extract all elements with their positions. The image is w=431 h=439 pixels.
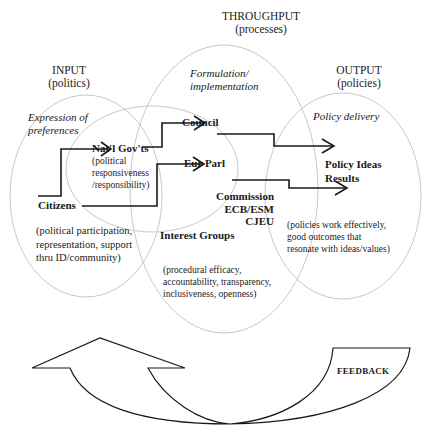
output-desc-line: resonate with ideas/values) — [287, 244, 390, 256]
citizens-desc-line: thru ID/community) — [36, 251, 132, 265]
citizens-desc-line: (political participation, — [36, 224, 132, 238]
feedback-arrow — [32, 338, 410, 424]
output-results-block: Policy Ideas Results — [325, 158, 382, 186]
eur-parl-label: Eur Parl — [184, 157, 225, 170]
results-label: Results — [325, 172, 382, 186]
policy-ideas-label: Policy Ideas — [325, 158, 382, 172]
input-phase-line: preferences — [28, 124, 88, 137]
throughput-phase-line: Formulation/ — [190, 67, 258, 80]
citizens-label: Citizens — [38, 199, 76, 212]
interest-desc-line: (procedural efficacy, — [163, 265, 271, 277]
interest-groups-desc: (procedural efficacy, accountability, tr… — [163, 265, 271, 301]
throughput-header: THROUGHPUT (processes) — [216, 10, 306, 36]
throughput-phase: Formulation/ implementation — [190, 67, 258, 92]
input-phase: Expression of preferences — [28, 111, 88, 136]
output-header: OUTPUT (policies) — [314, 64, 404, 90]
interest-groups-label: Interest Groups — [160, 229, 234, 242]
commission-block: Commission ECB/ESM CJEU — [212, 190, 274, 228]
output-desc-line: good outcomes that — [287, 232, 390, 244]
arrow-council-to-output — [217, 134, 333, 146]
council-label: Council — [182, 116, 219, 129]
citizens-desc-line: representation, support — [36, 238, 132, 252]
throughput-title: THROUGHPUT — [216, 10, 306, 23]
interest-desc-line: accountability, transparency, — [163, 277, 271, 289]
natl-govts-desc-line: responsiveness — [92, 168, 150, 180]
natl-govts-desc-line: /responsibility) — [92, 180, 150, 192]
throughput-phase-line: implementation — [190, 80, 258, 93]
output-subtitle: (policies) — [314, 77, 404, 90]
throughput-subtitle: (processes) — [216, 23, 306, 36]
natl-govts-desc-line: (political — [92, 156, 150, 168]
interest-desc-line: inclusiveness, openness) — [163, 289, 271, 301]
output-phase: Policy delivery — [313, 110, 379, 123]
ecb-esm-label: ECB/ESM — [212, 203, 274, 216]
natl-govts-label: Nat'l Gov'ts — [92, 142, 149, 155]
input-header: INPUT (politics) — [24, 64, 114, 90]
input-phase-line: Expression of — [28, 111, 88, 124]
output-desc: (policies work effectively, good outcome… — [287, 220, 390, 256]
cjeu-label: CJEU — [212, 215, 274, 228]
natl-govts-desc: (political responsiveness /responsibilit… — [92, 156, 150, 192]
output-title: OUTPUT — [314, 64, 404, 77]
input-title: INPUT — [24, 64, 114, 77]
output-desc-line: (policies work effectively, — [287, 220, 390, 232]
commission-label: Commission — [212, 190, 274, 203]
citizens-desc: (political participation, representation… — [36, 224, 132, 265]
input-subtitle: (politics) — [24, 77, 114, 90]
output-ellipse — [265, 93, 421, 299]
feedback-label: FEEDBACK — [337, 366, 389, 376]
